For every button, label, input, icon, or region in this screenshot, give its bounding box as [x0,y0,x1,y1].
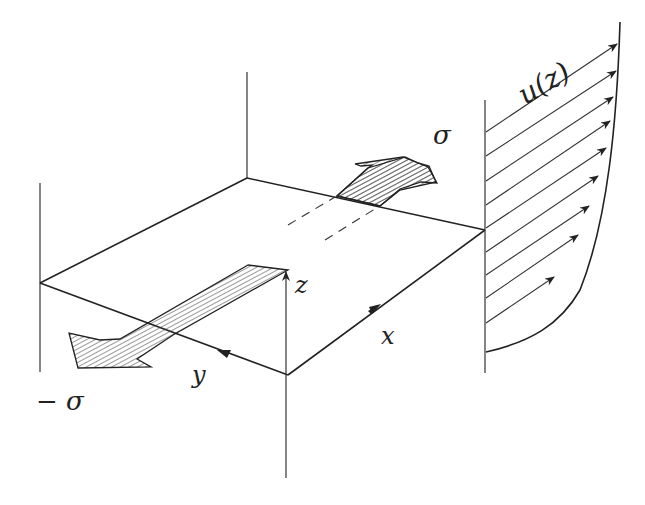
sigma-arrow-bottom [69,265,288,368]
label-sigma-top: σ [433,120,452,150]
shear-flow-diagram: σ − σ u(z) x y z [0,0,645,505]
label-axis-z: z [294,271,308,299]
label-axis-y: y [191,361,206,389]
sigma-arrow-top-outline [337,157,437,206]
label-sigma-bottom: − σ [36,386,85,416]
y-direction-arrow-icon [217,350,231,358]
label-axis-x: x [381,322,395,350]
label-velocity-profile: u(z) [512,55,576,111]
